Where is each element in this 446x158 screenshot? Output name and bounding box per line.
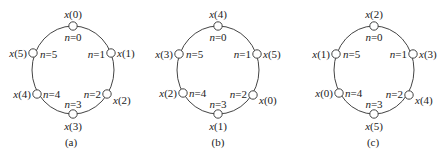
node-circle [335,89,343,97]
node-circle [33,90,41,98]
panel-c: x(2) x(3) x(4) x(5) x(0) x(1) n=0 n=1 n=… [301,0,446,158]
n-label: n=1 [88,48,105,60]
x-label: x(0) [315,87,333,99]
node-circle [249,91,257,99]
x-label: x(3) [155,48,173,60]
node-circle [69,110,77,118]
x-label: x(5) [9,47,27,59]
panel-caption: (a) [65,136,77,148]
node-circle [175,50,183,58]
n-label: n=0 [365,31,382,43]
n-label: n=3 [365,98,382,110]
n-label: n=5 [343,48,360,60]
x-label: x(0) [259,94,277,106]
node-circle [370,22,378,30]
circular-ring [301,0,446,158]
x-label: x(3) [64,120,82,132]
x-label: x(5) [365,120,383,132]
node-circle [253,50,261,58]
n-label: n=4 [189,87,206,99]
panel-a: x(0) x(1) x(2) x(3) x(4) x(5) n=0 n=1 n=… [0,0,150,158]
node-circle [370,110,378,118]
n-label: n=2 [84,88,101,100]
node-circle [107,49,115,57]
node-circle [214,110,222,118]
x-label: x(4) [13,88,31,100]
n-label: n=2 [230,88,247,100]
panel-b: x(4) x(5) x(0) x(1) x(2) x(3) n=0 n=1 n=… [145,0,295,158]
n-label: n=3 [64,98,81,110]
node-circle [214,22,222,30]
node-circle [405,91,413,99]
n-label: n=4 [345,87,362,99]
node-circle [103,90,111,98]
x-label: x(2) [159,87,177,99]
n-label: n=0 [209,31,226,43]
n-label: n=2 [386,88,403,100]
panel-caption: (c) [367,136,379,148]
node-circle [332,50,340,58]
n-label: n=5 [40,48,57,60]
x-label: x(4) [415,94,433,106]
n-label: n=4 [43,88,60,100]
x-label: x(4) [209,8,227,20]
n-label: n=3 [209,98,226,110]
node-circle [69,22,77,30]
x-label: x(1) [209,120,227,132]
x-label: x(1) [117,47,135,59]
n-label: n=5 [186,48,203,60]
n-label: n=1 [390,48,407,60]
circular-ring [145,0,295,158]
node-circle [179,89,187,97]
x-label: x(1) [312,48,330,60]
x-label: x(5) [263,48,281,60]
x-label: x(2) [365,8,383,20]
n-label: n=0 [64,31,81,43]
panel-caption: (b) [212,136,225,148]
circular-ring [0,0,150,158]
node-circle [409,50,417,58]
x-label: x(0) [64,8,82,20]
x-label: x(3) [419,48,437,60]
n-label: n=1 [234,48,251,60]
x-label: x(2) [113,94,131,106]
node-circle [29,49,37,57]
